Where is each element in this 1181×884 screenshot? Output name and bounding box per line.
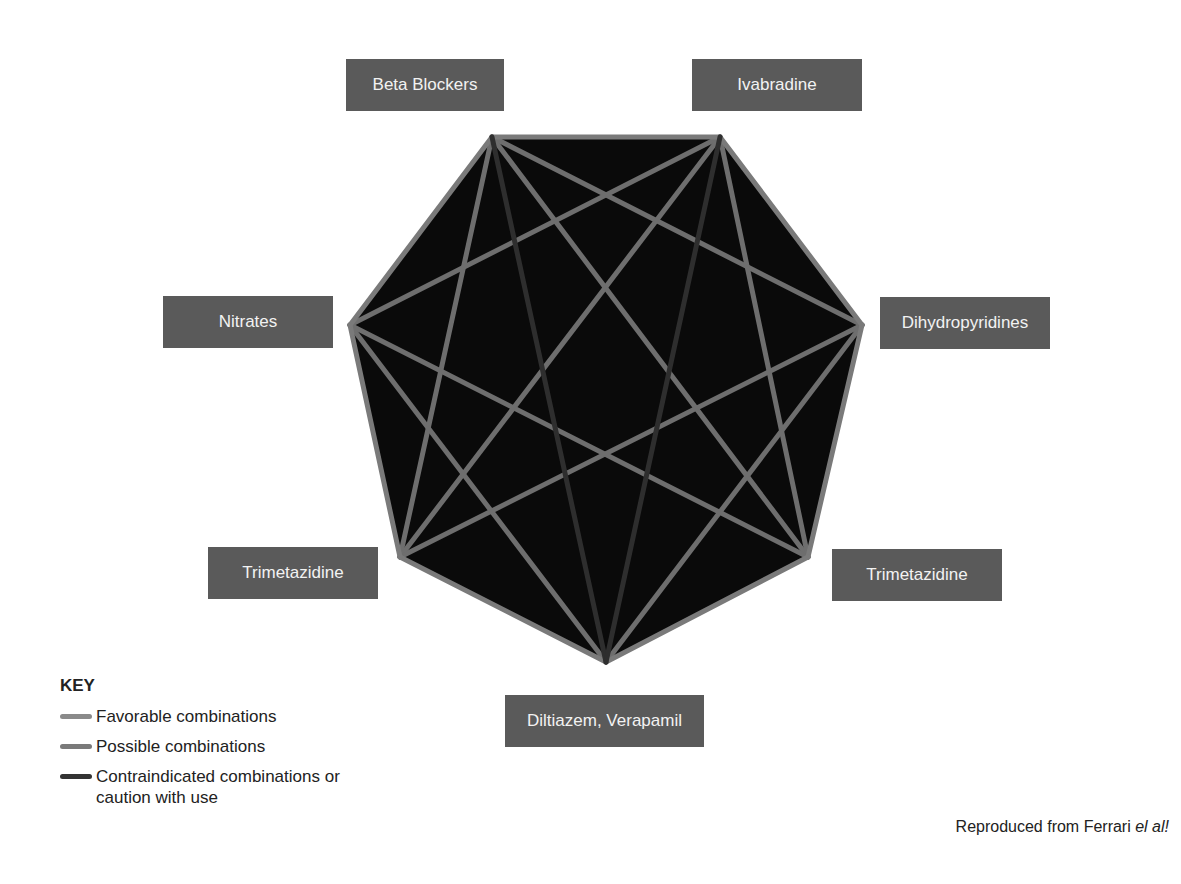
label-trimetazidine-left: Trimetazidine <box>208 547 378 599</box>
contraindicated-line-swatch <box>60 774 92 779</box>
heptagon-fill <box>350 137 862 662</box>
credit-italic: el al! <box>1135 818 1169 835</box>
label-diltiazem-verapamil: Diltiazem, Verapamil <box>505 695 704 747</box>
legend-item-contraindicated: Contraindicated combinations or caution … <box>60 766 360 808</box>
label-trimetazidine-right: Trimetazidine <box>832 549 1002 601</box>
legend-label: Contraindicated combinations or caution … <box>96 766 360 808</box>
label-ivabradine: Ivabradine <box>692 59 862 111</box>
legend: KEY Favorable combinations Possible comb… <box>60 676 360 817</box>
legend-item-favorable: Favorable combinations <box>60 706 360 727</box>
label-beta-blockers: Beta Blockers <box>346 59 504 111</box>
label-nitrates: Nitrates <box>163 296 333 348</box>
legend-label: Favorable combinations <box>96 706 276 727</box>
source-credit: Reproduced from Ferrari el al! <box>956 818 1169 836</box>
credit-text: Reproduced from Ferrari <box>956 818 1136 835</box>
possible-line-swatch <box>60 744 92 749</box>
favorable-line-swatch <box>60 714 92 719</box>
legend-label: Possible combinations <box>96 736 265 757</box>
label-dihydropyridines: Dihydropyridines <box>880 297 1050 349</box>
legend-item-possible: Possible combinations <box>60 736 360 757</box>
legend-title: KEY <box>60 676 360 696</box>
